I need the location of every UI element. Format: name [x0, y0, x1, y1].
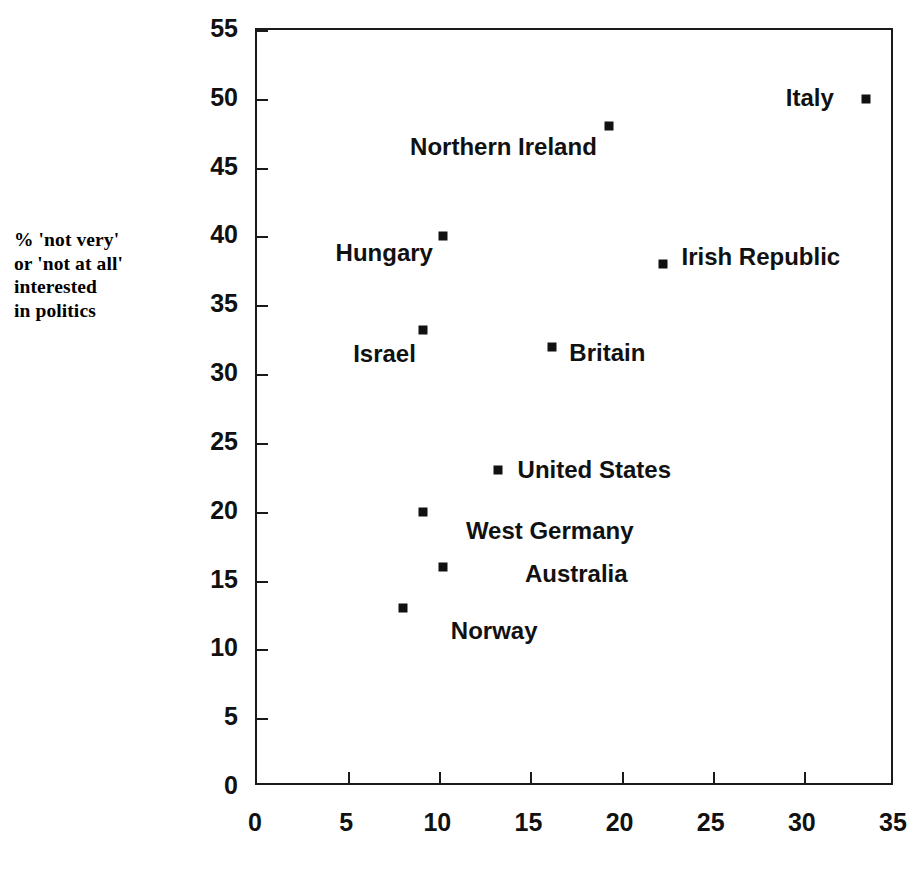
data-point-label: Hungary	[336, 241, 433, 265]
data-point-marker[interactable]	[418, 326, 427, 335]
y-axis-tick	[257, 236, 268, 238]
x-axis-tick-label: 10	[423, 810, 451, 835]
data-point-marker[interactable]	[604, 122, 613, 131]
scatter-plot-figure: % 'not very' or 'not at all' interested …	[0, 0, 923, 872]
data-point-label: Irish Republic	[681, 245, 840, 269]
x-axis-tick	[713, 772, 715, 783]
data-point-label: Northern Ireland	[410, 135, 597, 159]
data-point-marker[interactable]	[438, 232, 447, 241]
y-axis-tick-label: 5	[224, 704, 238, 729]
x-axis-tick	[530, 772, 532, 783]
data-point-marker[interactable]	[398, 604, 407, 613]
x-axis-tick-label: 0	[248, 810, 262, 835]
x-axis-tick-label: 25	[697, 810, 725, 835]
data-point-marker[interactable]	[659, 259, 668, 268]
y-axis-tick-label: 35	[210, 291, 238, 316]
y-axis-tick	[257, 99, 268, 101]
y-axis-tick-label: 55	[210, 16, 238, 41]
x-axis-tick	[804, 772, 806, 783]
x-axis-tick	[622, 772, 624, 783]
y-axis-tick-label: 15	[210, 566, 238, 591]
data-point-marker[interactable]	[418, 507, 427, 516]
y-axis-tick-label: 30	[210, 360, 238, 385]
y-axis-tick	[257, 305, 268, 307]
data-point-marker[interactable]	[861, 94, 870, 103]
data-point-label: Britain	[569, 341, 645, 365]
data-point-label: Norway	[451, 619, 538, 643]
y-axis-title: % 'not very' or 'not at all' interested …	[14, 228, 199, 322]
y-axis-tick	[257, 443, 268, 445]
x-axis-tick-label: 35	[879, 810, 907, 835]
y-axis-tick	[257, 649, 268, 651]
x-axis-tick	[348, 772, 350, 783]
y-axis-tick-label: 45	[210, 153, 238, 178]
y-axis-tick-label: 0	[224, 773, 238, 798]
y-axis-tick-label: 20	[210, 497, 238, 522]
data-point-marker[interactable]	[548, 342, 557, 351]
data-point-label: West Germany	[466, 519, 634, 543]
y-axis-tick-label: 10	[210, 635, 238, 660]
data-point-label: Israel	[353, 342, 416, 366]
data-point-label: Italy	[786, 86, 834, 110]
y-axis-tick-label: 25	[210, 428, 238, 453]
x-axis-tick-label: 30	[788, 810, 816, 835]
data-point-label: United States	[518, 458, 671, 482]
y-axis-tick	[257, 30, 268, 32]
data-point-label: Australia	[525, 562, 628, 586]
x-axis-tick	[439, 772, 441, 783]
x-axis-tick-label: 5	[339, 810, 353, 835]
y-axis-tick	[257, 718, 268, 720]
y-axis-tick	[257, 374, 268, 376]
y-axis-tick	[257, 168, 268, 170]
x-axis-tick-label: 20	[606, 810, 634, 835]
y-axis-tick	[257, 512, 268, 514]
plot-area-frame: ItalyNorthern IrelandHungaryIrish Republ…	[255, 28, 893, 785]
y-axis-tick	[257, 581, 268, 583]
y-axis-tick-label: 50	[210, 84, 238, 109]
data-point-marker[interactable]	[438, 562, 447, 571]
data-point-marker[interactable]	[493, 466, 502, 475]
y-axis-tick-label: 40	[210, 222, 238, 247]
x-axis-tick-label: 15	[515, 810, 543, 835]
